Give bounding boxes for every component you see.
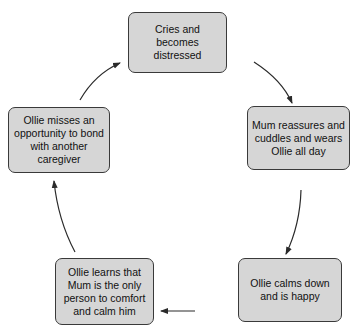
node-label: Ollie misses an opportunity to bond with… xyxy=(13,114,105,166)
node-cries-distressed: Cries and becomes distressed xyxy=(128,12,227,73)
node-ollie-learns: Ollie learns that Mum is the only person… xyxy=(55,258,154,325)
node-label: Cries and becomes distressed xyxy=(133,23,222,62)
node-mum-reassures: Mum reassures and cuddles and wears Olli… xyxy=(247,106,350,170)
node-label: Ollie learns that Mum is the only person… xyxy=(60,266,149,318)
arrow-n5-to-n1 xyxy=(80,63,120,100)
arrow-n4-to-n5 xyxy=(54,181,75,252)
node-label: Mum reassures and cuddles and wears Olli… xyxy=(252,119,345,158)
node-ollie-misses: Ollie misses an opportunity to bond with… xyxy=(8,107,110,173)
arrow-n1-to-n2 xyxy=(254,62,292,103)
arrow-n2-to-n3 xyxy=(286,190,301,254)
node-ollie-calms: Ollie calms down and is happy xyxy=(238,258,342,322)
node-label: Ollie calms down and is happy xyxy=(243,277,337,303)
